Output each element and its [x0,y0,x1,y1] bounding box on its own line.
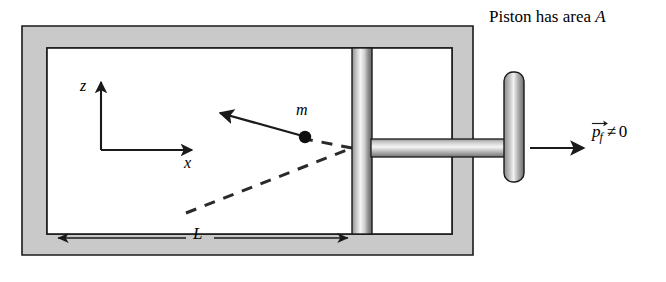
momentum-relation: ≠ [607,122,616,141]
momentum-vector-p: p [592,123,601,140]
caption-text: Piston has area [489,7,595,26]
piston-rod [371,139,507,157]
piston-face [352,48,372,234]
piston-area-caption: Piston has area A [489,8,606,25]
particle-dot [299,131,311,143]
piston-handle-plate [504,72,524,182]
final-momentum-label: pf≠0 [592,123,627,143]
figure-canvas: Piston has area A z x m L pf≠0 [0,0,666,282]
momentum-symbol: p [592,122,601,141]
piston-diagram [0,0,666,282]
momentum-value: 0 [619,122,628,141]
length-label: L [193,225,202,242]
x-axis-label: x [184,155,191,171]
caption-variable-A: A [595,7,605,26]
z-axis-label: z [80,78,86,94]
mass-label: m [296,102,308,118]
